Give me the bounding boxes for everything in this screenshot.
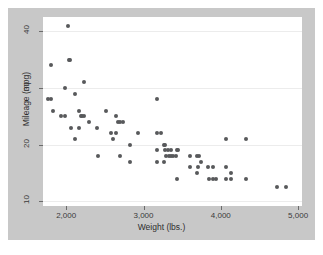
data-point (244, 177, 248, 181)
data-point (176, 148, 180, 152)
data-point (214, 177, 218, 181)
gridline (43, 201, 302, 202)
y-tick-mark (39, 31, 43, 32)
data-point (96, 154, 100, 158)
plot-area (43, 17, 302, 206)
data-point (163, 143, 167, 147)
y-tick-label: 40 (22, 20, 31, 40)
y-tick-mark (39, 88, 43, 89)
data-point (159, 131, 163, 135)
data-point (69, 126, 73, 130)
x-tick-mark (298, 206, 299, 210)
data-point (229, 171, 233, 175)
x-tick-mark (221, 206, 222, 210)
data-point (197, 154, 201, 158)
data-point (195, 171, 199, 175)
x-tick-mark (66, 206, 67, 210)
data-point (162, 160, 166, 164)
data-point (224, 137, 228, 141)
data-point (275, 185, 279, 189)
data-point (66, 24, 70, 28)
y-tick-label: 10 (22, 190, 31, 210)
data-point (109, 131, 113, 135)
data-point (77, 109, 81, 113)
data-point (169, 148, 173, 152)
figure-canvas: 10203040 2,0003,0004,0005,000 Mileage (m… (8, 8, 315, 240)
gridline (43, 31, 302, 32)
data-point (155, 148, 159, 152)
data-point (95, 126, 99, 130)
x-tick-label: 2,000 (46, 211, 86, 220)
data-point (284, 185, 288, 189)
x-tick-label: 5,000 (278, 211, 318, 220)
y-tick-mark (39, 145, 43, 146)
data-point (51, 109, 55, 113)
data-point (121, 120, 125, 124)
data-point (171, 154, 175, 158)
data-point (136, 131, 140, 135)
gridline (43, 145, 302, 146)
x-tick-label: 4,000 (201, 211, 241, 220)
data-point (87, 120, 91, 124)
data-point (111, 137, 115, 141)
data-point (104, 109, 108, 113)
data-point (82, 114, 86, 118)
data-point (73, 137, 77, 141)
x-axis-title: Weight (lbs.) (8, 222, 315, 232)
data-point (77, 126, 81, 130)
data-point (118, 154, 122, 158)
data-point (175, 177, 179, 181)
data-point (67, 58, 71, 62)
data-point (224, 177, 228, 181)
x-tick-mark (144, 206, 145, 210)
x-tick-label: 3,000 (124, 211, 164, 220)
data-point (188, 154, 192, 158)
data-point (164, 154, 168, 158)
data-point (211, 165, 215, 169)
data-point (114, 131, 118, 135)
gridline (43, 88, 302, 89)
data-point (155, 97, 159, 101)
data-point (63, 86, 67, 90)
data-point (49, 97, 53, 101)
data-point (128, 143, 132, 147)
data-point (229, 177, 233, 181)
data-point (73, 92, 77, 96)
data-point (199, 160, 203, 164)
data-point (63, 114, 67, 118)
data-point (155, 160, 159, 164)
data-point (206, 165, 210, 169)
data-point (49, 63, 53, 67)
data-point (114, 114, 118, 118)
data-point (224, 165, 228, 169)
data-point (244, 137, 248, 141)
data-point (188, 165, 192, 169)
data-point (82, 80, 86, 84)
y-axis-title: Mileage (mpg) (21, 49, 31, 149)
data-point (196, 165, 200, 169)
y-tick-mark (39, 201, 43, 202)
data-point (128, 160, 132, 164)
